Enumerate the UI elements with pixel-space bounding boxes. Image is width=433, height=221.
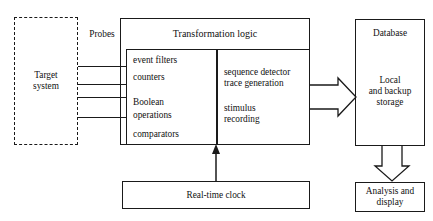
logic-to-database-arrow	[310, 78, 356, 116]
arrow-overlay	[0, 0, 433, 221]
database-to-analysis-arrow	[375, 146, 409, 181]
clock-to-logic-arrow	[212, 144, 220, 181]
diagram-canvas: Target system Probes Transformation logi…	[0, 0, 433, 221]
